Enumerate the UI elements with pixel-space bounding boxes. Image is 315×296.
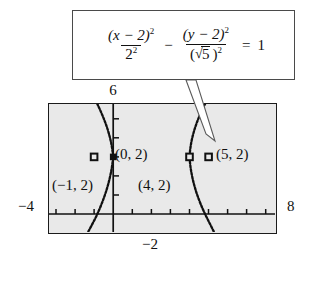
x-binomial-exponent: 2 [150, 26, 155, 36]
equals-sign: = [242, 37, 250, 54]
y-binomial-exponent: 2 [225, 25, 230, 35]
axis-label-top: 6 [109, 82, 117, 99]
y-binomial: (y − 2) [183, 26, 225, 42]
radical-sign-icon: √ [195, 47, 203, 62]
point-markers [91, 154, 212, 161]
y-axis-ticks [113, 119, 119, 232]
fraction-y-term: (y − 2)2 (√5)2 [179, 27, 233, 63]
right-branch [190, 104, 217, 232]
fraction-x-denominator: 22 [121, 45, 141, 63]
axis-label-bottom: −2 [142, 236, 158, 253]
plot-svg [49, 104, 275, 232]
marker-focus-5-2 [205, 154, 212, 161]
axis-label-right: 8 [287, 198, 295, 215]
equation-expression: (x − 2)2 22 − (y − 2)2 (√5)2 = 1 [102, 27, 265, 63]
axis-label-left: −4 [18, 198, 34, 215]
marker-focus-minus1-2 [91, 154, 98, 161]
plot-frame [48, 103, 277, 234]
marker-vertex-4-2 [186, 154, 193, 161]
point-label-4-2: (4, 2) [138, 177, 171, 194]
a-value-exponent: 2 [133, 45, 138, 55]
fraction-x-term: (x − 2)2 22 [104, 28, 158, 63]
x-binomial: (x − 2) [108, 27, 150, 43]
fraction-y-numerator: (y − 2)2 [179, 27, 233, 44]
point-label-0-2: (0, 2) [115, 146, 148, 163]
a-value: 2 [125, 46, 133, 62]
minus-operator: − [164, 37, 172, 54]
figure-canvas: (x − 2)2 22 − (y − 2)2 (√5)2 = 1 [0, 0, 315, 296]
axis-lines [49, 104, 275, 232]
right-hand-side: 1 [258, 37, 266, 54]
left-branch [86, 104, 113, 232]
point-label-minus1-2: (−1, 2) [52, 177, 93, 194]
b-value-exponent: 2 [217, 45, 222, 55]
square-root-group: √5 [195, 46, 213, 63]
equation-callout-box: (x − 2)2 22 − (y − 2)2 (√5)2 = 1 [72, 10, 295, 80]
point-label-5-2: (5, 2) [216, 146, 249, 163]
fraction-y-denominator: (√5)2 [186, 44, 226, 63]
fraction-x-numerator: (x − 2)2 [104, 28, 158, 45]
